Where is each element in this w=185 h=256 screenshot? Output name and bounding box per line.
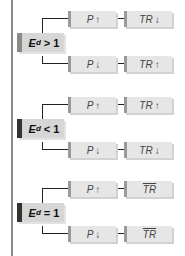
connector bbox=[42, 188, 69, 189]
arrow-up-icon: ↑ bbox=[95, 100, 100, 111]
arrow-up-icon: ↑ bbox=[95, 14, 100, 25]
revenue-constant-label: TR bbox=[143, 229, 156, 240]
revenue-box: TR↓ bbox=[124, 11, 172, 27]
condition-label: Ed = 1 bbox=[24, 203, 64, 222]
price-box: P↑ bbox=[68, 181, 116, 197]
arrow-up-icon: ↑ bbox=[155, 100, 160, 111]
price-box: P↑ bbox=[68, 97, 116, 113]
revenue-box: TR↑ bbox=[124, 56, 172, 72]
condition-box: Ed = 1 bbox=[17, 203, 64, 222]
revenue-box: TR↑ bbox=[124, 97, 172, 113]
arrow-down-icon: ↓ bbox=[95, 59, 100, 70]
revenue-box: TR bbox=[124, 181, 172, 197]
arrow-up-icon: ↑ bbox=[155, 59, 160, 70]
price-box: P↑ bbox=[68, 11, 116, 27]
revenue-box: TR↓ bbox=[124, 142, 172, 158]
condition-box: Ed < 1 bbox=[17, 119, 64, 138]
connector bbox=[42, 63, 69, 64]
price-box: P↓ bbox=[68, 142, 116, 158]
arrow-down-icon: ↓ bbox=[155, 145, 160, 156]
revenue-constant-label: TR bbox=[143, 184, 156, 195]
connector bbox=[42, 104, 69, 105]
group-unit-elastic: Ed = 1 P↑ TR P↓ TR bbox=[0, 170, 185, 250]
revenue-box: TR bbox=[124, 226, 172, 242]
group-elastic: Ed > 1 P↑ TR↓ P↓ TR↑ bbox=[0, 0, 185, 80]
price-box: P↓ bbox=[68, 226, 116, 242]
condition-label: Ed < 1 bbox=[24, 119, 64, 138]
connector bbox=[42, 149, 69, 150]
connector bbox=[42, 233, 69, 234]
arrow-up-icon: ↑ bbox=[95, 184, 100, 195]
arrow-down-icon: ↓ bbox=[155, 14, 160, 25]
arrow-down-icon: ↓ bbox=[95, 145, 100, 156]
condition-bar bbox=[17, 119, 22, 138]
price-box: P↓ bbox=[68, 56, 116, 72]
condition-bar bbox=[17, 33, 22, 52]
condition-box: Ed > 1 bbox=[17, 33, 64, 52]
condition-label: Ed > 1 bbox=[24, 33, 64, 52]
group-inelastic: Ed < 1 P↑ TR↑ P↓ TR↓ bbox=[0, 86, 185, 166]
connector bbox=[42, 18, 69, 19]
condition-bar bbox=[17, 203, 22, 222]
arrow-down-icon: ↓ bbox=[95, 229, 100, 240]
